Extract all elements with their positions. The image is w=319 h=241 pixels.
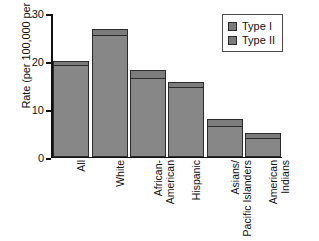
y-tick-mark (46, 110, 51, 112)
y-tick-label: 30 (32, 8, 44, 20)
bar-segment-type-ii (93, 30, 127, 36)
legend: Type I Type II (222, 14, 283, 52)
bar (207, 119, 243, 156)
bar-segment-type-ii (208, 120, 242, 127)
bar (245, 133, 281, 157)
x-tick-label: Asians/ Pacific Islanders (230, 160, 253, 240)
y-tick-mark (46, 158, 51, 160)
bar-segment-type-ii (169, 83, 203, 88)
y-axis-title: Rate (per 100,000 per year) (20, 0, 32, 122)
y-tick-label: 10 (32, 104, 44, 116)
x-tick-label: Hispanic (191, 160, 203, 240)
x-tick-label: White (115, 160, 127, 240)
bar (92, 29, 128, 156)
bar (53, 61, 89, 157)
x-tick-label: All (76, 160, 88, 240)
legend-label: Type II (242, 34, 275, 46)
legend-item: Type II (228, 33, 275, 47)
legend-swatch-icon (228, 22, 237, 31)
x-tick-label: American Indians (268, 160, 291, 240)
bar (168, 82, 204, 156)
legend-swatch-icon (228, 36, 237, 45)
bar-segment-type-ii (246, 134, 280, 139)
x-axis-tick-labels: AllWhiteAfrican- AmericanHispanicAsians/… (52, 160, 283, 240)
cropped-title-remnant (70, 0, 270, 2)
bar (130, 70, 166, 156)
x-axis-line (51, 157, 282, 159)
legend-label: Type I (242, 20, 272, 32)
y-tick-mark (46, 14, 51, 16)
y-tick-mark (46, 62, 51, 64)
y-tick-label: 20 (32, 56, 44, 68)
legend-item: Type I (228, 19, 275, 33)
x-tick-label: African- American (153, 160, 176, 240)
bar-segment-type-ii (131, 71, 165, 79)
bar-segment-type-ii (54, 62, 88, 67)
chart-figure: Rate (per 100,000 per year) 0102030 AllW… (0, 0, 319, 241)
y-tick-label: 0 (38, 152, 44, 164)
